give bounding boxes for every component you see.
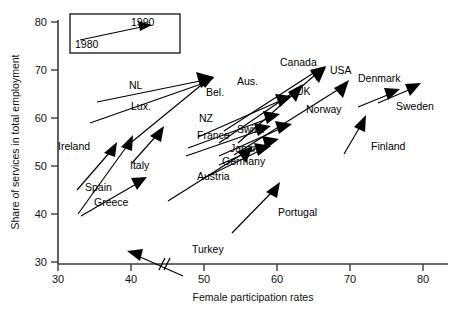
y-axis-title: Share of services in total employment xyxy=(9,54,21,229)
x-axis: 30 40 50 60 70 80 Female participation r… xyxy=(52,264,448,303)
y-ticklabel-70: 70 xyxy=(35,64,47,76)
y-ticklabel-50: 50 xyxy=(35,160,47,172)
x-ticklabel-40: 40 xyxy=(125,273,137,285)
y-ticklabel-40: 40 xyxy=(35,208,47,220)
arrow-turkey xyxy=(127,249,183,276)
label-denmark: Denmark xyxy=(358,72,401,84)
scatter-chart: 80 70 60 50 40 30 Share of services in t… xyxy=(0,0,452,312)
label-norway: Norway xyxy=(306,103,342,115)
label-canada: Canada xyxy=(280,56,317,68)
chart-page: 80 70 60 50 40 30 Share of services in t… xyxy=(0,0,452,312)
label-ireland: Ireland xyxy=(58,140,90,152)
label-aus: Aus. xyxy=(237,75,258,87)
label-finland: Finland xyxy=(371,140,406,152)
x-ticklabel-30: 30 xyxy=(52,273,64,285)
label-japan: Japan xyxy=(230,142,259,154)
label-uk: UK xyxy=(296,85,311,97)
label-germany: Germany xyxy=(222,155,266,167)
legend-inset: 1980 1990 xyxy=(70,14,180,53)
x-axis-title: Female participation rates xyxy=(193,291,314,303)
label-bel: Bel. xyxy=(206,86,224,98)
arrow-denmark xyxy=(358,88,400,107)
label-greece: Greece xyxy=(94,196,129,208)
label-italy: Italy xyxy=(130,159,150,171)
x-ticklabel-50: 50 xyxy=(198,273,210,285)
label-france: France xyxy=(197,129,230,141)
label-austria: Austria xyxy=(197,170,230,182)
label-turkey: Turkey xyxy=(192,243,224,255)
legend-start-label: 1980 xyxy=(75,38,99,50)
x-ticklabel-60: 60 xyxy=(271,273,283,285)
label-usa: USA xyxy=(330,64,352,76)
y-ticklabel-30: 30 xyxy=(35,256,47,268)
arrow-group xyxy=(77,66,421,276)
label-portugal: Portugal xyxy=(278,206,317,218)
y-ticklabel-60: 60 xyxy=(35,112,47,124)
legend-end-label: 1990 xyxy=(131,16,155,28)
label-sweden: Sweden xyxy=(396,100,434,112)
y-axis: 80 70 60 50 40 30 Share of services in t… xyxy=(9,16,58,268)
x-ticklabel-80: 80 xyxy=(417,273,429,285)
label-lux: Lux. xyxy=(131,100,151,112)
label-switz: Switz. xyxy=(237,123,265,135)
label-spain: Spain xyxy=(85,181,112,193)
arrow-italy xyxy=(132,126,164,163)
label-nz: NZ xyxy=(199,112,214,124)
arrow-finland xyxy=(344,115,366,154)
label-nl: NL xyxy=(129,79,143,91)
x-ticklabel-70: 70 xyxy=(344,273,356,285)
arrow-nl xyxy=(97,72,214,102)
y-ticklabel-80: 80 xyxy=(35,16,47,28)
arrow-portugal xyxy=(232,182,280,233)
